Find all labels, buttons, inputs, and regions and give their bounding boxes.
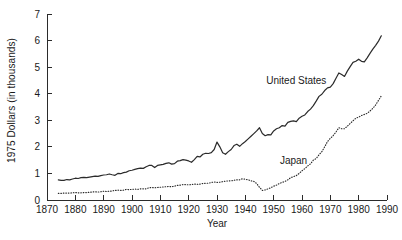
x-tick-label: 1880 [64, 204, 87, 215]
y-tick-label: 3 [34, 115, 40, 126]
x-tick-label: 1910 [149, 204, 172, 215]
series-line-united-states [58, 36, 381, 181]
x-tick-label: 1900 [121, 204, 144, 215]
series-annotation-united-states: United States [266, 75, 326, 86]
x-axis-label: Year [47, 218, 387, 229]
x-tick-label: 1950 [263, 204, 286, 215]
x-tick-label: 1920 [178, 204, 201, 215]
y-tick-label-group: 01234567 [34, 9, 40, 206]
x-tick-label: 1930 [206, 204, 229, 215]
axis-frame [47, 14, 387, 200]
y-tick-label: 5 [34, 62, 40, 73]
y-tick-label: 6 [34, 35, 40, 46]
x-tick-label: 1940 [234, 204, 257, 215]
y-tick-label: 7 [34, 9, 40, 20]
x-tick-label: 1870 [36, 204, 59, 215]
series-annotation-japan: Japan [280, 155, 307, 166]
x-tick-label: 1990 [376, 204, 399, 215]
x-tick-label: 1980 [348, 204, 371, 215]
plot-area: 01234567 1870188018901900191019201930194… [0, 0, 402, 240]
y-tick-label: 2 [34, 141, 40, 152]
x-tick-label: 1960 [291, 204, 314, 215]
x-tick-label-group: 1870188018901900191019201930194019501960… [36, 204, 399, 215]
chart-figure: 1975 Dollars (in thousands) 01234567 187… [0, 0, 402, 240]
x-tick-label: 1890 [93, 204, 116, 215]
y-tick-label: 1 [34, 168, 40, 179]
tick-mark-group [47, 14, 387, 200]
x-tick-label: 1970 [319, 204, 342, 215]
series-line-japan [58, 96, 381, 194]
y-tick-label: 4 [34, 88, 40, 99]
